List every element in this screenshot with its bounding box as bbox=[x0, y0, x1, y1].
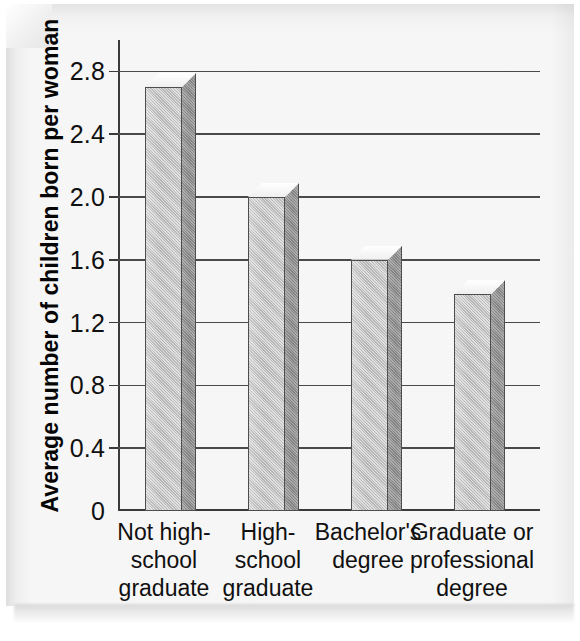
bar-side-face bbox=[182, 73, 196, 511]
bar-1 bbox=[145, 87, 182, 511]
figure-root: Average number of children born per woma… bbox=[0, 0, 580, 641]
bar-side-face bbox=[491, 280, 505, 511]
bar-front-face bbox=[454, 294, 491, 511]
y-tick-1.2 bbox=[109, 322, 118, 324]
y-tick-0.4 bbox=[109, 447, 118, 449]
y-tick-label-2.8: 2.8 bbox=[70, 57, 105, 86]
x-label-line: graduate bbox=[208, 574, 328, 602]
bar-2 bbox=[248, 197, 285, 511]
y-axis-line bbox=[118, 40, 120, 511]
x-label-4: Graduate orprofessionaldegree bbox=[397, 518, 547, 602]
y-tick-label-2.4: 2.4 bbox=[70, 120, 105, 149]
y-tick-label-0.8: 0.8 bbox=[70, 371, 105, 400]
gridline-2.8 bbox=[118, 71, 540, 73]
bar-3 bbox=[351, 260, 388, 511]
bar-front-face bbox=[351, 260, 388, 511]
y-tick-label-1.2: 1.2 bbox=[70, 308, 105, 337]
y-tick-label-1.6: 1.6 bbox=[70, 245, 105, 274]
bar-4 bbox=[454, 294, 491, 511]
y-tick-2.0 bbox=[109, 196, 118, 198]
y-tick-2.4 bbox=[109, 133, 118, 135]
plot-area: 00.40.81.21.62.02.42.8 bbox=[118, 40, 540, 511]
panel-drop-shadow bbox=[14, 604, 574, 622]
y-tick-0.8 bbox=[109, 385, 118, 387]
y-tick-1.6 bbox=[109, 259, 118, 261]
x-label-line: Graduate or bbox=[397, 518, 547, 546]
x-label-line: degree bbox=[397, 574, 547, 602]
bar-side-face bbox=[388, 246, 402, 511]
x-axis-labels: Not high-schoolgraduateHigh-schoolgradua… bbox=[118, 518, 578, 606]
bar-side-face bbox=[285, 183, 299, 511]
y-axis-title: Average number of children born per woma… bbox=[37, 16, 64, 516]
y-tick-label-2.0: 2.0 bbox=[70, 183, 105, 212]
y-tick-2.8 bbox=[109, 71, 118, 73]
bar-front-face bbox=[145, 87, 182, 511]
bar-front-face bbox=[248, 197, 285, 511]
x-label-line: professional bbox=[397, 546, 547, 574]
y-tick-label-0.4: 0.4 bbox=[70, 434, 105, 463]
